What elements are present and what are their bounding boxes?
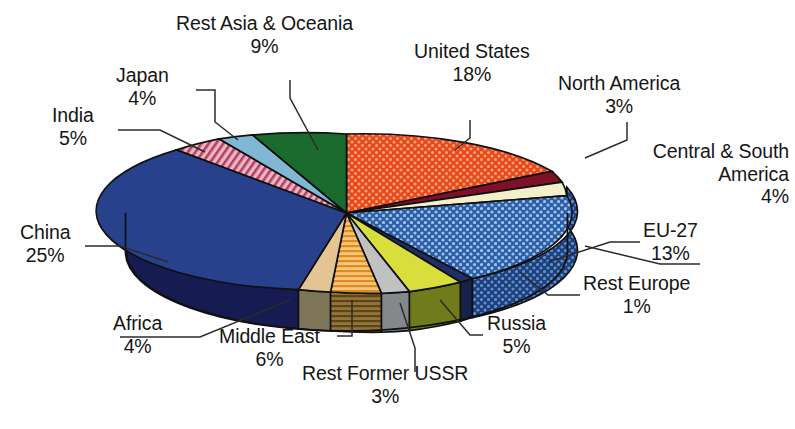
label-value: 5%: [52, 127, 94, 150]
pie-chart-figure: Rest Asia & Oceania 9% Japan 4% India 5%…: [0, 0, 795, 429]
leader-japan: [196, 90, 238, 140]
label-rest-europe: Rest Europe 1%: [583, 272, 690, 317]
slice-side-rest-former-ussr: [382, 292, 410, 333]
label-name: Middle East: [219, 325, 320, 348]
label-rest-asia-oceania: Rest Asia & Oceania 9%: [176, 12, 353, 57]
label-value: 25%: [20, 244, 70, 267]
label-name: China: [20, 221, 70, 244]
label-north-america: North America 3%: [558, 72, 680, 117]
label-china: China 25%: [20, 221, 70, 266]
label-central-south-america: Central & South America 4%: [653, 140, 789, 208]
label-name: Rest Former USSR: [302, 362, 468, 385]
label-name: North America: [558, 72, 680, 95]
label-united-states: United States 18%: [414, 40, 530, 85]
label-africa: Africa 4%: [113, 312, 162, 357]
label-name: United States: [414, 40, 530, 63]
label-name: Rest Asia & Oceania: [176, 12, 353, 35]
pie-top-face: [96, 133, 572, 294]
label-name: Rest Europe: [583, 272, 690, 295]
label-name-line2: America: [653, 163, 789, 186]
label-value: 5%: [487, 335, 546, 358]
label-name: Africa: [113, 312, 162, 335]
label-name: Central & South: [653, 140, 789, 163]
label-name: EU-27: [643, 219, 698, 242]
label-russia: Russia 5%: [487, 312, 546, 357]
label-value: 3%: [558, 95, 680, 118]
label-value: 4%: [653, 185, 789, 208]
label-value: 3%: [302, 385, 468, 408]
label-name: Russia: [487, 312, 546, 335]
label-value: 9%: [176, 35, 353, 58]
label-rest-former-ussr: Rest Former USSR 3%: [302, 362, 468, 407]
label-eu27: EU-27 13%: [643, 219, 698, 264]
label-value: 4%: [116, 87, 169, 110]
label-name: India: [52, 104, 94, 127]
leader-north-america: [585, 122, 627, 158]
label-name: Japan: [116, 64, 169, 87]
slice-side-middle-east: [331, 292, 382, 332]
label-value: 13%: [643, 242, 698, 265]
label-value: 18%: [414, 63, 530, 86]
label-value: 1%: [583, 295, 690, 318]
label-value: 4%: [113, 335, 162, 358]
label-india: India 5%: [52, 104, 94, 149]
label-japan: Japan 4%: [116, 64, 169, 109]
slice-side-rest-europe: [461, 279, 473, 322]
